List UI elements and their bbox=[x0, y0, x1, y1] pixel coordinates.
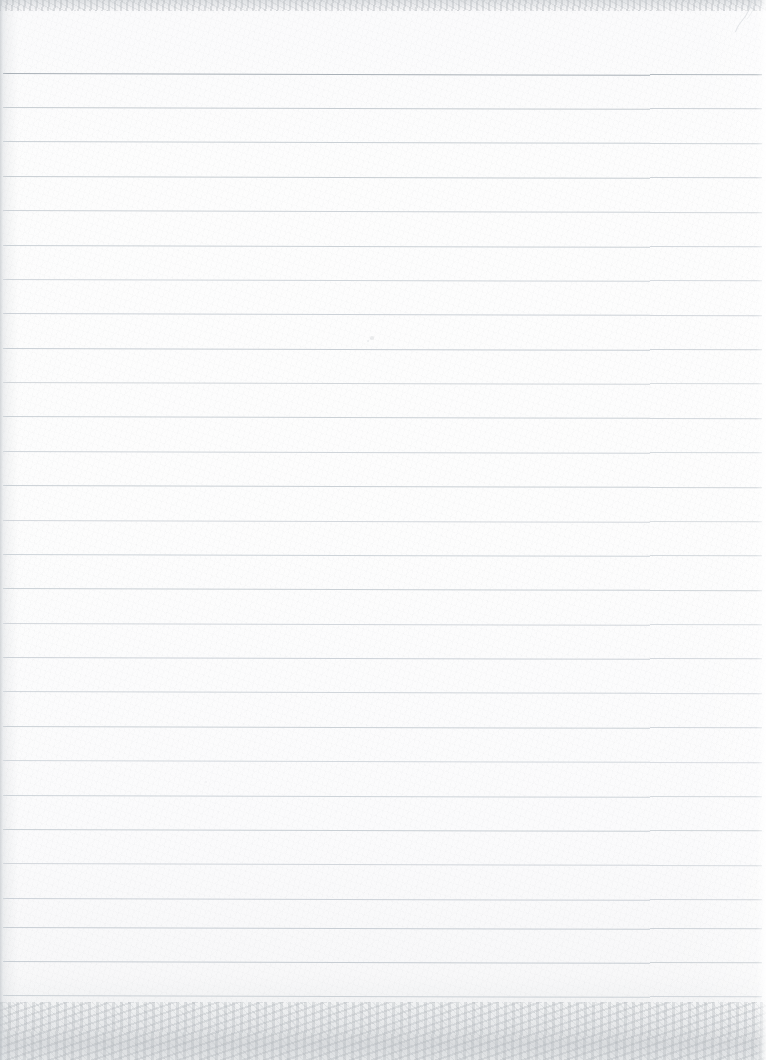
page-top-edge bbox=[0, 0, 766, 11]
ruled-lines-layer bbox=[0, 0, 766, 1060]
rule-line bbox=[650, 487, 762, 488]
rule-line bbox=[3, 554, 650, 557]
rule-line bbox=[650, 830, 762, 831]
scanned-page bbox=[0, 0, 766, 1060]
rule-line bbox=[3, 657, 650, 660]
rule-line bbox=[650, 280, 762, 281]
page-left-edge bbox=[0, 0, 7, 1060]
rule-line bbox=[3, 416, 650, 419]
rule-line bbox=[650, 143, 762, 144]
rule-line bbox=[650, 452, 762, 453]
rule-line bbox=[3, 348, 650, 351]
rule-line bbox=[3, 73, 650, 76]
rule-line bbox=[650, 555, 762, 556]
rule-line bbox=[650, 108, 762, 109]
rule-line bbox=[3, 726, 650, 729]
rule-line bbox=[3, 382, 650, 385]
rule-line bbox=[3, 107, 650, 110]
rule-line bbox=[650, 865, 762, 866]
rule-line bbox=[3, 829, 650, 832]
rule-line bbox=[3, 176, 650, 179]
rule-line bbox=[3, 795, 650, 798]
rule-line bbox=[3, 210, 650, 213]
rule-line bbox=[650, 590, 762, 591]
rule-line bbox=[3, 927, 650, 930]
rule-line bbox=[650, 693, 762, 694]
rule-line bbox=[3, 863, 650, 866]
rule-line bbox=[3, 995, 650, 998]
rule-line bbox=[650, 74, 762, 75]
rule-line bbox=[650, 315, 762, 316]
paper-fleck bbox=[370, 336, 374, 340]
rule-line bbox=[3, 760, 650, 763]
rule-line bbox=[650, 928, 762, 929]
paper-fleck bbox=[367, 340, 369, 342]
rule-line bbox=[650, 383, 762, 384]
page-bottom-edge bbox=[0, 1002, 766, 1060]
rule-line bbox=[3, 141, 650, 144]
rule-line bbox=[3, 313, 650, 316]
rule-line bbox=[650, 246, 762, 247]
rule-line bbox=[650, 762, 762, 763]
rule-line bbox=[3, 279, 650, 282]
rule-line bbox=[3, 451, 650, 454]
rule-line bbox=[650, 899, 762, 900]
paper-fleck bbox=[205, 781, 207, 783]
rule-line bbox=[650, 996, 762, 997]
rule-line bbox=[650, 349, 762, 350]
rule-line bbox=[650, 521, 762, 522]
rule-line bbox=[650, 418, 762, 419]
rule-line bbox=[3, 485, 650, 488]
rule-line bbox=[650, 177, 762, 178]
rule-line bbox=[650, 727, 762, 728]
rule-line bbox=[3, 245, 650, 248]
page-right-margin bbox=[756, 0, 766, 1060]
folded-corner-icon bbox=[732, 0, 758, 32]
rule-line bbox=[3, 898, 650, 901]
rule-line bbox=[650, 962, 762, 963]
rule-line bbox=[3, 961, 650, 964]
rule-line bbox=[3, 691, 650, 694]
rule-line bbox=[650, 624, 762, 625]
rule-line bbox=[3, 520, 650, 523]
rule-line bbox=[650, 658, 762, 659]
rule-line bbox=[3, 623, 650, 626]
rule-line bbox=[650, 796, 762, 797]
rule-line bbox=[3, 588, 650, 591]
rule-line bbox=[650, 212, 762, 213]
